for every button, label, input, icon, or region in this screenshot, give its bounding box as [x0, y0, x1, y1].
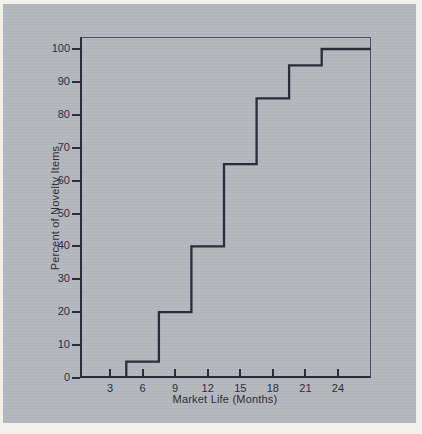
y-tick-label: 90 [38, 75, 70, 88]
y-tick-mark [72, 114, 80, 116]
step-polyline [126, 49, 370, 378]
figure: 36912151821240102030405060708090100 Mark… [0, 0, 422, 434]
y-tick-mark [72, 147, 80, 149]
y-tick-mark [72, 344, 80, 346]
x-tick-mark [272, 369, 274, 376]
y-tick-label: 80 [38, 108, 70, 121]
x-tick-mark [142, 369, 144, 376]
x-tick-mark [174, 369, 176, 376]
y-tick-mark [72, 180, 80, 182]
x-tick-mark [304, 369, 306, 376]
x-tick-mark [109, 369, 111, 376]
y-tick-label: 20 [38, 305, 70, 318]
y-tick-label: 100 [38, 42, 70, 55]
step-curve [80, 37, 371, 378]
y-tick-mark [72, 278, 80, 280]
y-tick-mark [72, 213, 80, 215]
y-tick-mark [72, 377, 80, 379]
x-tick-mark [239, 369, 241, 376]
y-tick-label: 10 [38, 338, 70, 351]
y-axis-title: Percent of Novelty Items [49, 128, 63, 288]
y-tick-mark [72, 311, 80, 313]
x-axis-title: Market Life (Months) [115, 393, 335, 405]
x-tick-mark [337, 369, 339, 376]
y-tick-mark [72, 48, 80, 50]
y-tick-mark [72, 81, 80, 83]
x-tick-mark [207, 369, 209, 376]
figure-panel: 36912151821240102030405060708090100 Mark… [3, 4, 416, 423]
y-tick-label: 0 [38, 371, 70, 384]
y-tick-mark [72, 245, 80, 247]
